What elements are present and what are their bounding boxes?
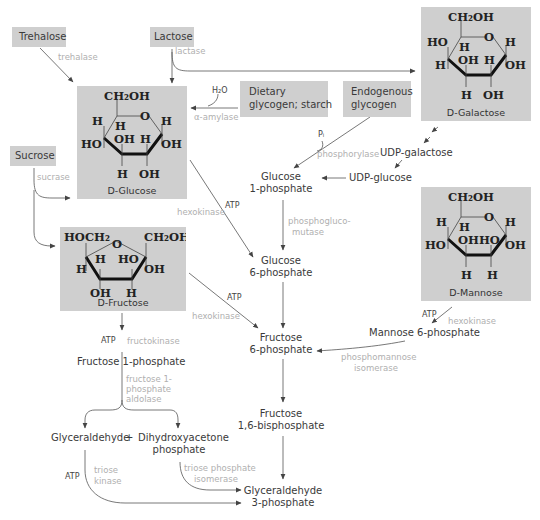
plus-sign: +	[125, 432, 133, 444]
trehalose-label: Trehalose	[19, 31, 66, 43]
galactose-ring: CH₂OH O HO H H H OH H OH H OH	[421, 7, 531, 107]
dietary-label-1: Dietary	[249, 86, 286, 98]
svg-text:H: H	[140, 132, 151, 146]
glyceraldehyde: Glyceraldehyde	[51, 432, 129, 444]
svg-text:CH₂OH: CH₂OH	[448, 10, 494, 24]
svg-text:H: H	[459, 40, 470, 54]
svg-text:OH: OH	[161, 137, 182, 151]
sucrose-label: Sucrose	[15, 150, 55, 162]
fructose-1-phosphate: Fructose 1-phosphate	[77, 356, 185, 368]
mannose-6-phosphate: Mannose 6-phosphate	[369, 327, 480, 339]
svg-text:H: H	[115, 119, 126, 133]
enzyme-trehalase: trehalase	[58, 52, 98, 62]
svg-text:H: H	[484, 53, 495, 67]
svg-text:H: H	[161, 114, 172, 128]
svg-text:H: H	[459, 220, 470, 234]
pi-label: Pᵢ	[318, 130, 324, 140]
enzyme-f1p-aldolase-3: aldolase	[126, 394, 161, 404]
enzyme-tpi-1: triose phosphate	[184, 463, 256, 473]
enzyme-phosphoglucomutase-1: phosphogluco-	[288, 216, 351, 226]
mannose-ring: CH₂OH O H H H HO OH HO OH H H	[421, 187, 531, 287]
atp-hexokinase-mannose: ATP	[422, 310, 437, 320]
svg-text:OH: OH	[458, 53, 479, 67]
dihydroxyacetone-phosphate: Dihydroxyacetonephosphate	[138, 432, 220, 456]
udp-galactose: UDP-galactose	[380, 147, 453, 159]
svg-text:H: H	[461, 268, 472, 282]
trehalose-box: Trehalose	[12, 27, 66, 47]
atp-fructokinase: ATP	[101, 336, 116, 346]
enzyme-fructokinase: fructokinase	[127, 336, 180, 346]
svg-text:O: O	[112, 237, 122, 251]
svg-text:H: H	[487, 268, 498, 282]
svg-text:OH: OH	[505, 58, 526, 72]
svg-text:H: H	[505, 35, 516, 49]
enzyme-triose-kinase-1: triose	[94, 465, 118, 475]
mannose-caption: D-Mannose	[421, 287, 531, 298]
galactose-caption: D-Galactose	[421, 107, 531, 118]
enzyme-phosphomannose-isomerase-2: isomerase	[354, 363, 398, 373]
svg-text:HO: HO	[81, 137, 102, 151]
svg-text:OH: OH	[139, 167, 160, 181]
lactose-box: Lactose	[150, 27, 194, 47]
enzyme-phosphomannose-isomerase-1: phosphomannose	[341, 352, 417, 362]
dietary-label-2: glycogen; starch	[249, 99, 332, 111]
svg-text:OH: OH	[483, 88, 504, 102]
svg-text:H: H	[461, 88, 472, 102]
sucrose-box: Sucrose	[10, 146, 56, 166]
enzyme-sucrase: sucrase	[37, 172, 70, 182]
svg-text:H: H	[92, 114, 103, 128]
mannose-structure-box: CH₂OH O H H H HO OH HO OH H H D-Mannose	[421, 187, 531, 301]
fructose-6-phosphate: Fructose6-phosphate	[246, 332, 316, 356]
svg-text:CH₂OH: CH₂OH	[448, 190, 494, 204]
glucose-caption: D-Glucose	[77, 185, 187, 196]
svg-text:H: H	[435, 58, 446, 72]
atp-triose-kinase: ATP	[65, 472, 80, 482]
svg-text:OH: OH	[144, 262, 165, 276]
atp-hexokinase-fructose: ATP	[227, 293, 242, 303]
svg-text:HO: HO	[479, 233, 500, 247]
svg-text:CH₂OH: CH₂OH	[144, 230, 186, 244]
glucose-1-phosphate: Glucose1-phosphate	[246, 171, 316, 195]
svg-text:HO: HO	[425, 238, 446, 252]
enzyme-alpha-amylase: α-amylase	[194, 112, 238, 122]
fructose-1-6-bisphosphate: Fructose1,6-bisphosphate	[236, 408, 326, 432]
svg-text:OH: OH	[114, 132, 135, 146]
enzyme-f1p-aldolase-1: fructose 1-	[126, 374, 172, 384]
galactose-structure-box: CH₂OH O HO H H H OH H OH H OH D-Galactos…	[421, 7, 531, 121]
endogenous-glycogen-box: Endogenous glycogen	[343, 81, 411, 117]
enzyme-tpi-2: isomerase	[194, 474, 238, 484]
svg-text:O: O	[140, 109, 150, 123]
enzyme-hexokinase-fructose: hexokinase	[192, 311, 240, 321]
fructose-ring: HOCH₂ CH₂OH O H H HO OH OH H	[60, 227, 186, 299]
dietary-glycogen-box: Dietary glycogen; starch	[240, 81, 328, 117]
endogenous-label-2: glycogen	[351, 99, 397, 111]
svg-text:H: H	[117, 167, 128, 181]
enzyme-f1p-aldolase-2: phosphate	[126, 384, 171, 394]
svg-text:HOCH₂: HOCH₂	[64, 230, 110, 244]
svg-text:HO: HO	[118, 252, 139, 266]
atp-hexokinase-glucose: ATP	[225, 201, 240, 211]
svg-text:H: H	[505, 215, 516, 229]
enzyme-triose-kinase-2: kinase	[94, 476, 122, 486]
glucose-6-phosphate: Glucose6-phosphate	[246, 255, 316, 279]
glucose-structure-box: CH₂OH O H H H HO OH H OH H OH D-Glucose	[77, 86, 187, 199]
enzyme-phosphoglucomutase-2: mutase	[292, 227, 324, 237]
svg-text:CH₂OH: CH₂OH	[104, 89, 150, 103]
svg-text:O: O	[484, 30, 494, 44]
fructose-caption: D-Fructose	[60, 297, 186, 308]
svg-text:OH: OH	[505, 238, 526, 252]
glucose-ring: CH₂OH O H H H HO OH H OH H OH	[77, 86, 187, 186]
svg-text:O: O	[484, 210, 494, 224]
svg-text:HO: HO	[427, 35, 448, 49]
svg-text:OH: OH	[458, 233, 479, 247]
lactose-label: Lactose	[154, 31, 193, 43]
fructose-structure-box: HOCH₂ CH₂OH O H H HO OH OH H D-Fructose	[60, 227, 186, 311]
svg-text:H: H	[436, 215, 447, 229]
glyceraldehyde-3-phosphate: Glyceraldehyde3-phosphate	[243, 485, 323, 509]
h2o-label: H₂O	[212, 86, 228, 96]
enzyme-hexokinase-mannose: hexokinase	[448, 316, 496, 326]
enzyme-phosphorylase: phosphorylase	[317, 149, 379, 159]
enzyme-hexokinase-glucose: hexokinase	[177, 207, 225, 217]
svg-text:H: H	[95, 252, 106, 266]
endogenous-label-1: Endogenous	[351, 86, 413, 98]
